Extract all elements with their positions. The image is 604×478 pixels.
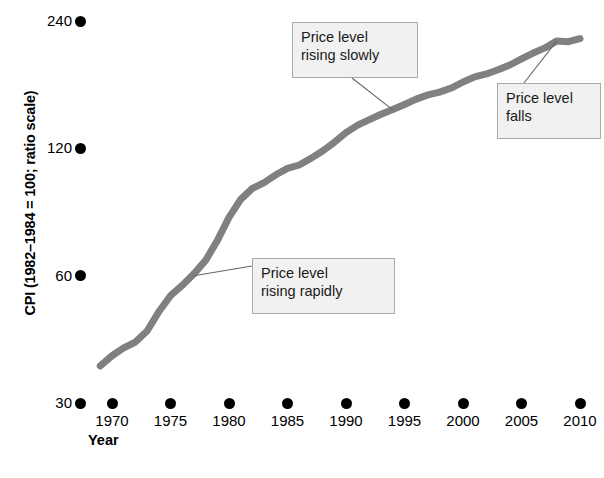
x-tick-label: 1970: [82, 412, 142, 429]
y-tick-dot: [75, 398, 86, 409]
y-tick-dot: [75, 143, 86, 154]
y-tick-dot: [75, 270, 86, 281]
x-tick-label: 1985: [258, 412, 318, 429]
annotation-rising-slowly: Price level rising slowly: [292, 22, 418, 78]
x-tick-label: 1980: [199, 412, 259, 429]
x-tick-label: 1975: [141, 412, 201, 429]
y-tick-label: 60: [26, 267, 72, 284]
x-tick-dot: [224, 398, 235, 409]
x-tick-label: 2000: [433, 412, 493, 429]
y-tick-label: 120: [26, 139, 72, 156]
x-tick-dot: [341, 398, 352, 409]
x-tick-dot: [575, 398, 586, 409]
x-tick-dot: [107, 398, 118, 409]
x-tick-label: 1990: [316, 412, 376, 429]
y-tick-dot: [75, 16, 86, 27]
cpi-line-chart: CPI (1982–1984 = 100; ratio scale) Year …: [0, 0, 604, 478]
y-tick-label: 240: [26, 12, 72, 29]
y-tick-label: 30: [26, 394, 72, 411]
x-tick-dot: [458, 398, 469, 409]
x-tick-label: 2005: [492, 412, 552, 429]
x-tick-dot: [399, 398, 410, 409]
x-tick-dot: [516, 398, 527, 409]
leader-line-rising-slowly: [352, 78, 393, 110]
annotation-rising-rapidly: Price level rising rapidly: [252, 258, 395, 314]
x-tick-label: 1995: [375, 412, 435, 429]
annotation-price-falls: Price level falls: [497, 83, 601, 139]
x-tick-dot: [165, 398, 176, 409]
x-tick-dot: [282, 398, 293, 409]
x-tick-label: 2010: [550, 412, 604, 429]
